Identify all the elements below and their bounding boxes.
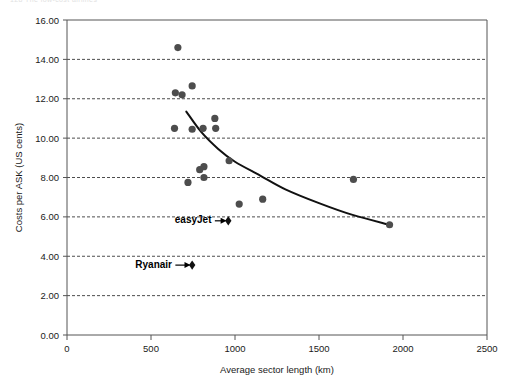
x-axis-title: Average sector length (km) bbox=[220, 364, 334, 375]
y-tick-label: 16.00 bbox=[35, 15, 59, 26]
data-point bbox=[386, 221, 393, 228]
data-point bbox=[350, 176, 357, 183]
x-tick-label: 500 bbox=[143, 343, 159, 354]
scatter-chart: 05001000150020002500 0.002.004.006.008.0… bbox=[0, 0, 508, 386]
y-tick-labels: 0.002.004.006.008.0010.0012.0014.0016.00 bbox=[35, 15, 59, 341]
data-point bbox=[178, 91, 185, 98]
data-point bbox=[184, 179, 191, 186]
x-tick-label: 0 bbox=[64, 343, 69, 354]
tick-marks bbox=[63, 20, 487, 340]
annotation-arrowhead-easyjet bbox=[221, 218, 227, 224]
data-point bbox=[200, 174, 207, 181]
y-axis-title: Costs per ASK (US cents) bbox=[13, 123, 24, 232]
y-tick-label: 8.00 bbox=[41, 172, 60, 183]
y-tick-label: 0.00 bbox=[41, 330, 60, 341]
data-point bbox=[172, 89, 179, 96]
data-point bbox=[189, 126, 196, 133]
data-point bbox=[211, 115, 218, 122]
annotation-label-ryanair: Ryanair bbox=[135, 259, 172, 270]
y-tick-label: 12.00 bbox=[35, 93, 59, 104]
y-tick-label: 14.00 bbox=[35, 54, 59, 65]
y-tick-label: 6.00 bbox=[41, 211, 60, 222]
data-point bbox=[212, 125, 219, 132]
gridlines bbox=[67, 59, 487, 295]
data-point bbox=[200, 163, 207, 170]
x-tick-label: 2500 bbox=[476, 343, 497, 354]
annotation-arrowhead-ryanair bbox=[184, 262, 190, 268]
data-point bbox=[174, 44, 181, 51]
y-tick-label: 10.00 bbox=[35, 133, 59, 144]
annotations: easyJetRyanair bbox=[135, 214, 226, 269]
x-tick-label: 1000 bbox=[224, 343, 245, 354]
data-point bbox=[236, 200, 243, 207]
axis-titles: Average sector length (km)Costs per ASK … bbox=[13, 123, 334, 375]
data-point bbox=[259, 196, 266, 203]
data-point bbox=[226, 157, 233, 164]
data-point bbox=[171, 125, 178, 132]
data-point bbox=[189, 82, 196, 89]
y-tick-label: 4.00 bbox=[41, 251, 60, 262]
data-point bbox=[199, 125, 206, 132]
x-tick-labels: 05001000150020002500 bbox=[64, 343, 497, 354]
x-tick-label: 2000 bbox=[392, 343, 413, 354]
y-tick-label: 2.00 bbox=[41, 290, 60, 301]
annotation-label-easyjet: easyJet bbox=[175, 214, 212, 225]
chart-page: 128 The low-cost airlines 05001000150020… bbox=[0, 0, 508, 386]
x-tick-label: 1500 bbox=[308, 343, 329, 354]
